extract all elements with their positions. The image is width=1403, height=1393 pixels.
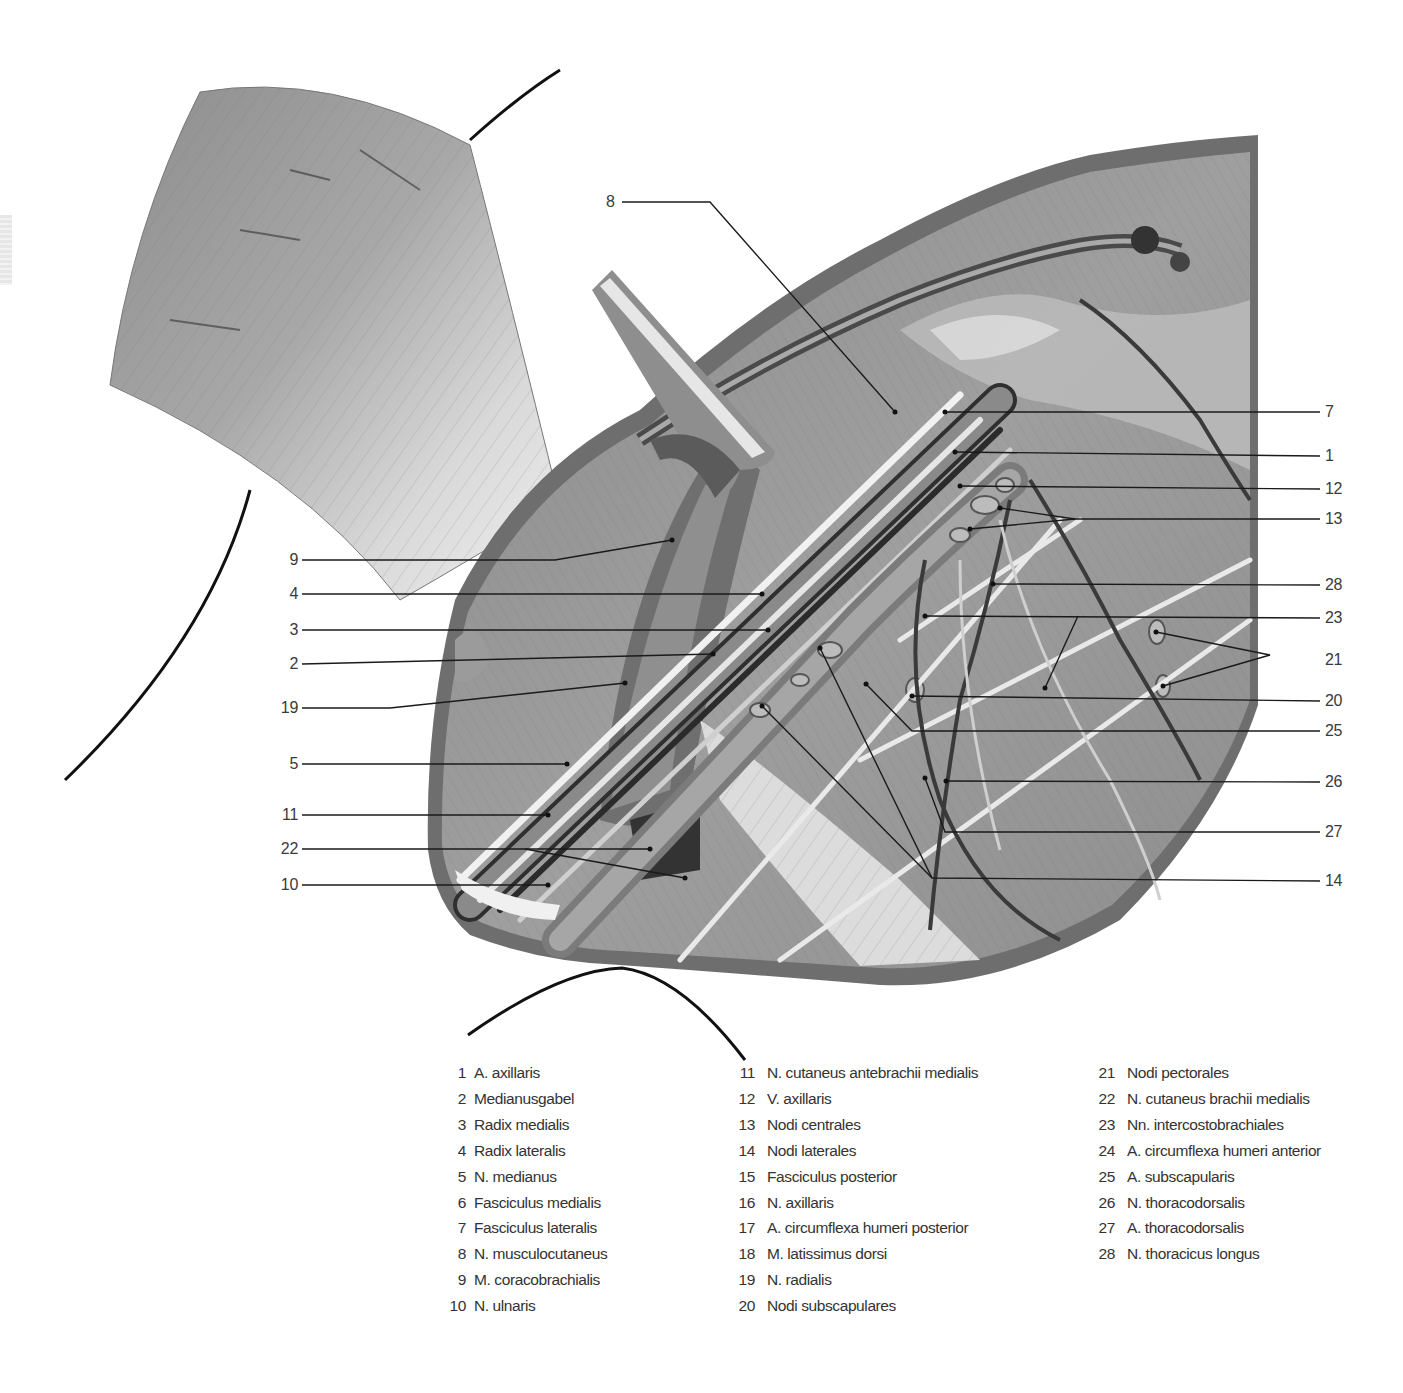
legend-item: 25A. subscapularis <box>1093 1164 1321 1190</box>
legend-label: N. axillaris <box>767 1190 834 1216</box>
legend-number: 11 <box>733 1060 755 1086</box>
legend-column-1: 1A. axillaris2Medianusgabel3Radix medial… <box>440 1060 607 1319</box>
legend-number: 5 <box>440 1164 466 1190</box>
legend-number: 6 <box>440 1190 466 1216</box>
legend-label: V. axillaris <box>767 1086 831 1112</box>
legend-item: 1A. axillaris <box>440 1060 607 1086</box>
legend-item: 26N. thoracodorsalis <box>1093 1190 1321 1216</box>
legend-item: 24A. circumflexa humeri anterior <box>1093 1138 1321 1164</box>
legend-item: 22N. cutaneus brachii medialis <box>1093 1086 1321 1112</box>
legend-label: A. subscapularis <box>1127 1164 1234 1190</box>
legend-number: 10 <box>440 1293 466 1319</box>
callout-label-27: 27 <box>1325 824 1342 840</box>
callout-label-19: 19 <box>268 700 298 716</box>
legend-number: 23 <box>1093 1112 1115 1138</box>
legend-label: Nodi subscapulares <box>767 1293 896 1319</box>
legend-number: 17 <box>733 1215 755 1241</box>
legend-item: 14Nodi laterales <box>733 1138 978 1164</box>
legend-item: 12V. axillaris <box>733 1086 978 1112</box>
legend-number: 9 <box>440 1267 466 1293</box>
legend-label: Nn. intercostobrachiales <box>1127 1112 1284 1138</box>
legend-item: 18M. latissimus dorsi <box>733 1241 978 1267</box>
reflected-muscle-fan <box>110 87 560 600</box>
legend-label: Nodi pectorales <box>1127 1060 1229 1086</box>
legend-item: 15Fasciculus posterior <box>733 1164 978 1190</box>
legend-item: 2Medianusgabel <box>440 1086 607 1112</box>
legend-label: Fasciculus medialis <box>474 1190 601 1216</box>
legend-number: 4 <box>440 1138 466 1164</box>
legend-number: 28 <box>1093 1241 1115 1267</box>
legend-column-3: 21Nodi pectorales22N. cutaneus brachii m… <box>1093 1060 1321 1267</box>
legend-number: 12 <box>733 1086 755 1112</box>
legend-item: 21Nodi pectorales <box>1093 1060 1321 1086</box>
legend-item: 5N. medianus <box>440 1164 607 1190</box>
legend-item: 27A. thoracodorsalis <box>1093 1215 1321 1241</box>
legend-number: 22 <box>1093 1086 1115 1112</box>
legend-number: 20 <box>733 1293 755 1319</box>
legend-number: 24 <box>1093 1138 1115 1164</box>
legend-label: Medianusgabel <box>474 1086 574 1112</box>
callout-label-14: 14 <box>1325 873 1342 889</box>
legend-label: M. coracobrachialis <box>474 1267 600 1293</box>
callout-label-12: 12 <box>1325 481 1342 497</box>
legend-label: Nodi laterales <box>767 1138 856 1164</box>
legend-number: 2 <box>440 1086 466 1112</box>
legend-item: 16N. axillaris <box>733 1190 978 1216</box>
callout-label-26: 26 <box>1325 774 1342 790</box>
legend-label: N. musculocutaneus <box>474 1241 607 1267</box>
legend-number: 26 <box>1093 1190 1115 1216</box>
legend-item: 9M. coracobrachialis <box>440 1267 607 1293</box>
legend-item: 11N. cutaneus antebrachii medialis <box>733 1060 978 1086</box>
legend-item: 19N. radialis <box>733 1267 978 1293</box>
legend-number: 13 <box>733 1112 755 1138</box>
callout-label-3: 3 <box>268 622 298 638</box>
legend-item: 23Nn. intercostobrachiales <box>1093 1112 1321 1138</box>
callout-label-4: 4 <box>268 586 298 602</box>
legend-number: 15 <box>733 1164 755 1190</box>
legend-item: 10N. ulnaris <box>440 1293 607 1319</box>
legend-column-2: 11N. cutaneus antebrachii medialis12V. a… <box>733 1060 978 1319</box>
legend-label: A. axillaris <box>474 1060 540 1086</box>
legend-label: A. circumflexa humeri anterior <box>1127 1138 1321 1164</box>
legend-number: 14 <box>733 1138 755 1164</box>
legend-label: Radix lateralis <box>474 1138 565 1164</box>
legend-number: 25 <box>1093 1164 1115 1190</box>
callout-label-20: 20 <box>1325 693 1342 709</box>
legend-item: 20Nodi subscapulares <box>733 1293 978 1319</box>
legend-number: 16 <box>733 1190 755 1216</box>
figure-page: 9432195112210 7112132823212025262714 8 1… <box>0 0 1403 1393</box>
legend-label: Radix medialis <box>474 1112 569 1138</box>
legend-label: M. latissimus dorsi <box>767 1241 887 1267</box>
legend-number: 21 <box>1093 1060 1115 1086</box>
legend-item: 28N. thoracicus longus <box>1093 1241 1321 1267</box>
legend-label: N. ulnaris <box>474 1293 535 1319</box>
legend-item: 8N. musculocutaneus <box>440 1241 607 1267</box>
legend-label: A. thoracodorsalis <box>1127 1215 1244 1241</box>
callout-label-11: 11 <box>268 807 298 823</box>
callout-label-5: 5 <box>268 756 298 772</box>
legend-label: A. circumflexa humeri posterior <box>767 1215 968 1241</box>
legend-item: 7Fasciculus lateralis <box>440 1215 607 1241</box>
callout-label-8: 8 <box>606 194 615 210</box>
legend-label: N. radialis <box>767 1267 832 1293</box>
callout-label-9: 9 <box>268 552 298 568</box>
legend-label: N. cutaneus antebrachii medialis <box>767 1060 978 1086</box>
legend-number: 18 <box>733 1241 755 1267</box>
legend-number: 7 <box>440 1215 466 1241</box>
legend-number: 1 <box>440 1060 466 1086</box>
callout-label-10: 10 <box>268 877 298 893</box>
legend-number: 8 <box>440 1241 466 1267</box>
callout-label-25: 25 <box>1325 723 1342 739</box>
legend-label: N. cutaneus brachii medialis <box>1127 1086 1310 1112</box>
callout-label-28: 28 <box>1325 577 1342 593</box>
legend-label: N. medianus <box>474 1164 557 1190</box>
legend-number: 19 <box>733 1267 755 1293</box>
legend-item: 17A. circumflexa humeri posterior <box>733 1215 978 1241</box>
callout-label-23: 23 <box>1325 610 1342 626</box>
legend-label: N. thoracicus longus <box>1127 1241 1259 1267</box>
legend-number: 3 <box>440 1112 466 1138</box>
legend-label: Nodi centrales <box>767 1112 860 1138</box>
legend-label: Fasciculus posterior <box>767 1164 897 1190</box>
legend-label: N. thoracodorsalis <box>1127 1190 1245 1216</box>
legend-item: 4Radix lateralis <box>440 1138 607 1164</box>
